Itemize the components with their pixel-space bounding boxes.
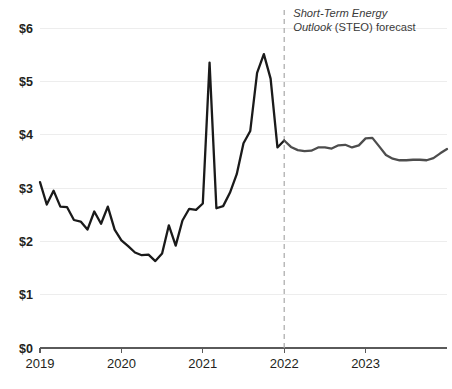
historical-series-line	[40, 54, 284, 261]
forecast-annotation-line-1: Short-Term Energy	[293, 7, 388, 19]
forecast-annotation-steo-text: (STEO) forecast	[332, 21, 417, 33]
y-tick-label: $5	[19, 75, 33, 89]
annotation-group: Short-Term EnergyOutlook (STEO) forecast	[293, 7, 416, 33]
y-tick-label: $3	[19, 182, 33, 196]
line-chart: $0$1$2$3$4$5$6 20192020202120222023 Shor…	[0, 0, 452, 389]
y-axis-labels-group: $0$1$2$3$4$5$6	[19, 22, 33, 356]
y-tick-label: $2	[19, 235, 33, 249]
forecast-series-line	[284, 138, 447, 160]
forecast-annotation-line-2: Outlook (STEO) forecast	[293, 21, 416, 33]
x-tick-label: 2021	[188, 356, 217, 371]
gridlines-group	[40, 28, 447, 295]
y-tick-label: $0	[19, 342, 33, 356]
x-tick-label: 2020	[107, 356, 136, 371]
y-tick-label: $1	[19, 288, 33, 302]
x-axis-labels-group: 20192020202120222023	[26, 356, 381, 371]
forecast-annotation-outlook-word: Outlook	[293, 21, 333, 33]
x-axis-group	[40, 348, 447, 353]
y-tick-label: $6	[19, 22, 33, 36]
x-tick-label: 2023	[351, 356, 380, 371]
x-tick-label: 2022	[270, 356, 299, 371]
x-tick-label: 2019	[26, 356, 55, 371]
y-tick-label: $4	[19, 128, 33, 142]
data-series-group	[40, 54, 447, 261]
chart-container: $0$1$2$3$4$5$6 20192020202120222023 Shor…	[0, 0, 452, 389]
